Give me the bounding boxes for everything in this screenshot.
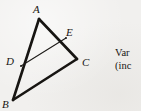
side-text-line-1: Var bbox=[115, 46, 141, 59]
segment-ac bbox=[39, 19, 77, 59]
vertex-label-e: E bbox=[66, 27, 73, 38]
vertex-label-a: A bbox=[33, 4, 40, 15]
segment-ab bbox=[13, 19, 39, 100]
vertex-label-d: D bbox=[6, 56, 14, 67]
side-text-line-2: (inc bbox=[115, 59, 141, 72]
figure-page: A B C D E Var (inc bbox=[0, 0, 141, 111]
side-text-block: Var (inc bbox=[115, 46, 141, 72]
point-d-dot bbox=[20, 65, 22, 67]
vertex-label-b: B bbox=[2, 99, 9, 110]
vertex-label-c: C bbox=[82, 57, 89, 68]
